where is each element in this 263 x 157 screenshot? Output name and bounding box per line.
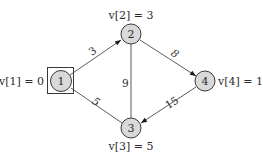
node-4-value-label: v[4] = 11: [217, 75, 263, 88]
edge-weight-2-3: 9: [122, 77, 129, 89]
node-2-value-label: v[2] = 3: [107, 9, 153, 22]
node-3-label: 3: [128, 122, 135, 135]
edge-weight-1-2: 3: [86, 44, 98, 58]
graph-diagram: 3 8 5 9 15 1 2 3 4 v[1] = 0 v[2] = 3 v[3…: [0, 0, 263, 157]
node-3: 3: [121, 118, 141, 138]
node-2-label: 2: [128, 28, 135, 41]
node-1: 1: [51, 71, 72, 92]
edge-2-4: [140, 40, 196, 76]
edge-weight-4-3: 15: [163, 94, 181, 111]
node-4-label: 4: [202, 75, 209, 88]
edge-1-2: [70, 40, 121, 75]
node-4: 4: [195, 71, 215, 91]
node-1-value-label: v[1] = 0: [0, 75, 44, 88]
edge-weight-2-4: 8: [169, 46, 181, 60]
node-1-label: 1: [58, 75, 65, 88]
node-3-value-label: v[3] = 5: [107, 140, 153, 153]
edge-weight-1-3: 5: [90, 94, 103, 108]
node-2: 2: [121, 24, 141, 44]
